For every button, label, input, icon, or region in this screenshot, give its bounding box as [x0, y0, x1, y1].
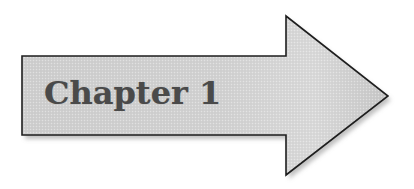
arrow-label: Chapter 1 [44, 73, 221, 113]
diagram-canvas: Chapter 1 [0, 0, 414, 189]
